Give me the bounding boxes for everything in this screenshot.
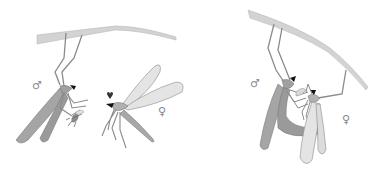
female-fore-leg (318, 70, 346, 98)
panel-mating: ♂ ♀ (190, 0, 380, 179)
male-thorax (60, 85, 72, 93)
mating-illustration (190, 0, 380, 179)
female-symbol: ♀ (158, 106, 166, 117)
prey-insect (66, 110, 84, 127)
prey-insect (296, 88, 306, 96)
male-symbol: ♂ (250, 78, 260, 89)
female-thorax (308, 94, 320, 102)
male-fore-leg (55, 33, 66, 85)
branch (248, 10, 368, 90)
courtship-illustration (0, 0, 190, 179)
panel-courtship: ♂ ♀ (0, 0, 190, 179)
female-symbol: ♀ (342, 114, 350, 125)
male-fore-leg-2 (278, 28, 290, 80)
female-wing-2 (316, 104, 326, 154)
branch (37, 26, 176, 44)
heart-icon (107, 92, 113, 99)
male-thorax (282, 80, 294, 89)
male-symbol: ♂ (32, 80, 42, 91)
female-abdomen (120, 110, 154, 142)
